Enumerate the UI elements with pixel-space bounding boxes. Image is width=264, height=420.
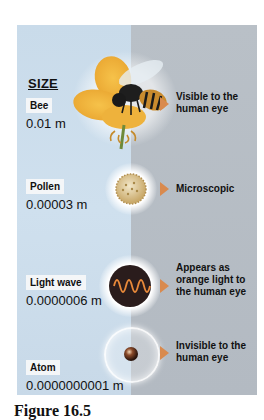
item-size-bee: 0.01 m xyxy=(26,116,66,131)
item-size-atom: 0.0000000001 m xyxy=(26,378,124,393)
item-description-pollen: Microscopic xyxy=(176,183,256,195)
pollen-grain-icon xyxy=(113,171,149,207)
item-description-atom: Invisible to the human eye xyxy=(176,340,256,364)
item-description-light-wave: Appears as orange light to the human eye xyxy=(176,262,256,298)
item-description-bee: Visible to the human eye xyxy=(176,91,256,115)
size-heading: SIZE xyxy=(28,76,58,91)
item-label-light-wave: Light wave xyxy=(26,275,86,290)
atom-sphere-icon xyxy=(122,345,140,363)
arrow-icon xyxy=(160,279,169,293)
sine-wave-icon xyxy=(108,264,152,308)
item-size-light-wave: 0.0000006 m xyxy=(26,293,102,308)
figure-caption: Figure 16.5 xyxy=(14,402,91,420)
arrow-icon xyxy=(160,182,169,196)
item-label-pollen: Pollen xyxy=(26,179,64,194)
item-label-bee: Bee xyxy=(26,98,52,113)
item-label-atom: Atom xyxy=(26,360,60,375)
arrow-icon xyxy=(160,97,169,111)
arrow-icon xyxy=(160,346,169,360)
item-size-pollen: 0.00003 m xyxy=(26,197,87,212)
size-comparison-panel: SIZE Bee 0.01 m Visible to the human e xyxy=(17,25,257,395)
